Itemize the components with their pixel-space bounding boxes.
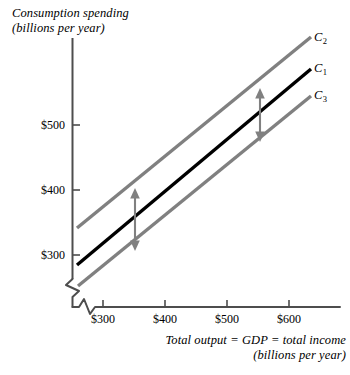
curve-label-c3-sub: 3 <box>323 94 327 104</box>
x-axis-title: Total output = GDP = total income (billi… <box>162 333 346 363</box>
curve-label-c2-base: C <box>314 30 322 44</box>
y-tick-label-400: $400 <box>13 183 65 197</box>
curve-label-c2: C2 <box>314 30 327 45</box>
x-tick-label-400: $400 <box>135 312 195 326</box>
curve-c3 <box>78 96 311 286</box>
y-axis-break-icon <box>66 279 79 307</box>
curve-c1 <box>77 69 311 265</box>
y-axis-title: Consumption spending (billions per year) <box>12 6 129 36</box>
x-axis-title-line2: (billions per year) <box>162 348 346 363</box>
y-axis-ticks <box>73 125 81 255</box>
consumption-function-chart: Consumption spending (billions per year)… <box>0 0 350 375</box>
curve-label-c1-sub: 1 <box>323 67 327 77</box>
x-axis-title-line1: Total output = GDP = total income <box>165 333 346 347</box>
y-tick-label-500: $500 <box>13 118 65 132</box>
x-tick-label-500: $500 <box>197 312 257 326</box>
y-tick-label-300: $300 <box>13 248 65 262</box>
curve-c2 <box>77 37 311 228</box>
y-axis-title-line1: Consumption spending <box>12 6 129 20</box>
x-axis-ticks <box>103 300 289 307</box>
curve-label-c3-base: C <box>314 88 322 102</box>
y-axis-title-line2: (billions per year) <box>12 21 129 36</box>
curve-label-c3: C3 <box>314 88 327 103</box>
curve-label-c1-base: C <box>314 61 322 75</box>
curve-label-c2-sub: 2 <box>323 36 327 46</box>
x-tick-label-300: $300 <box>73 312 133 326</box>
curve-label-c1: C1 <box>314 61 327 76</box>
x-tick-label-600: $600 <box>259 312 319 326</box>
